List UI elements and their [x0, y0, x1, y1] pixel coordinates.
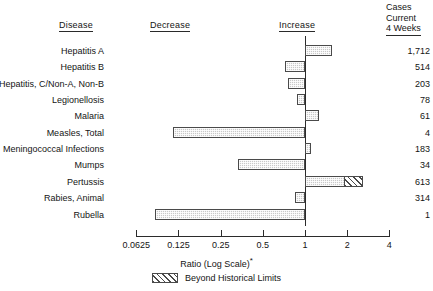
cases-count-value: 61	[386, 111, 430, 121]
chart-row: Hepatitis B514	[0, 60, 433, 76]
disease-label: Hepatitis A	[61, 46, 104, 56]
legend: Beyond Historical Limits	[0, 273, 433, 283]
cases-count-value: 1	[386, 210, 430, 220]
cases-count-value: 1,712	[386, 46, 430, 56]
legend-swatch-beyond-historical-limits	[152, 273, 178, 283]
cases-count-value: 314	[386, 193, 430, 203]
chart-row: Pertussis613	[0, 175, 433, 191]
x-axis-tick	[178, 230, 179, 237]
x-axis-tick	[305, 230, 306, 237]
x-axis-tick-label: 0.0625	[123, 240, 151, 250]
x-axis-tick	[221, 230, 222, 237]
chart-row: Meningococcal Infections183	[0, 142, 433, 158]
cases-count-value: 34	[386, 160, 430, 170]
cases-count-value: 78	[386, 95, 430, 105]
x-axis-tick-label: 0.5	[257, 240, 270, 250]
legend-label-beyond-historical-limits: Beyond Historical Limits	[185, 273, 281, 283]
x-axis-title-footnote-marker: *	[250, 256, 253, 265]
chart-row: Rubella1	[0, 208, 433, 224]
x-axis-tick	[136, 230, 137, 237]
chart-row: Malaria61	[0, 109, 433, 125]
disease-label: Rubella	[73, 210, 104, 220]
x-axis-tick-label: 2	[345, 240, 350, 250]
x-axis-tick-label: 0.125	[167, 240, 190, 250]
cases-count-value: 203	[386, 79, 430, 89]
chart-row: Measles, Total4	[0, 126, 433, 142]
disease-ratio-chart: Disease Decrease Increase Cases Current …	[0, 0, 433, 291]
disease-label: Legionellosis	[52, 95, 104, 105]
x-axis-tick	[389, 230, 390, 237]
disease-label: Measles, Total	[47, 128, 104, 138]
disease-label: Hepatitis B	[60, 62, 104, 72]
chart-row: Legionellosis78	[0, 93, 433, 109]
chart-row: Mumps34	[0, 158, 433, 174]
x-axis-tick-label: 0.25	[212, 240, 230, 250]
cases-count-value: 183	[386, 144, 430, 154]
x-axis-title: Ratio (Log Scale)*	[0, 256, 433, 269]
x-axis-tick-label: 1	[302, 240, 307, 250]
chart-row: Hepatitis, C/Non-A, Non-B203	[0, 77, 433, 93]
disease-label: Meningococcal Infections	[3, 144, 104, 154]
disease-label: Malaria	[74, 111, 104, 121]
disease-label: Mumps	[74, 160, 104, 170]
x-axis-tick-label: 4	[387, 240, 392, 250]
x-axis-title-text: Ratio (Log Scale)	[180, 259, 250, 269]
disease-label: Hepatitis, C/Non-A, Non-B	[0, 79, 104, 89]
chart-row: Rabies, Animal314	[0, 191, 433, 207]
x-axis-tick	[347, 230, 348, 237]
disease-label: Rabies, Animal	[44, 193, 104, 203]
cases-count-value: 613	[386, 177, 430, 187]
chart-row: Hepatitis A1,712	[0, 44, 433, 60]
cases-count-value: 4	[386, 128, 430, 138]
cases-count-value: 514	[386, 62, 430, 72]
disease-label: Pertussis	[67, 177, 104, 187]
x-axis-tick	[263, 230, 264, 237]
